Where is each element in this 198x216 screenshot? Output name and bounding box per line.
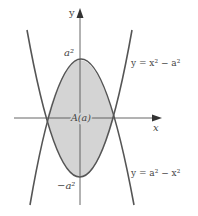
y-axis-label: y [68, 7, 75, 18]
curve-upper-label: y = x² − a² [130, 58, 181, 68]
y-axis-arrow-icon [77, 8, 84, 18]
bottom-value-label: −a² [57, 180, 75, 191]
x-axis-label: x [153, 122, 159, 133]
top-value-label: a² [64, 47, 74, 58]
x-axis-arrow-icon [152, 115, 162, 122]
curve-lower-label: y = a² − x² [130, 168, 181, 178]
diagram-canvas: y x a² −a² A(a) y = x² − a² y = a² − x² [0, 0, 198, 216]
region-label: A(a) [70, 112, 91, 123]
